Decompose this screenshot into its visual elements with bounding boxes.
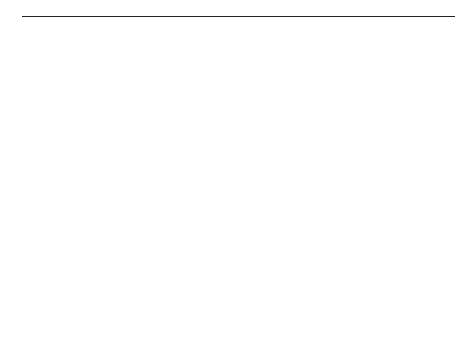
chart-figure [0, 0, 471, 337]
chart-page [0, 0, 471, 337]
